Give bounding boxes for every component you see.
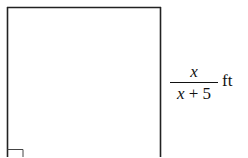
side-length-label: x x + 5 ft <box>170 62 232 103</box>
fraction-bar <box>170 82 218 83</box>
side-length-fraction: x x + 5 <box>170 62 218 103</box>
right-angle-marker-icon <box>8 150 24 158</box>
fraction-denominator: x + 5 <box>177 84 211 103</box>
fraction-numerator: x <box>190 62 198 81</box>
rectangle-diagram: x x + 5 ft <box>0 0 248 157</box>
denominator-constant: + 5 <box>184 84 211 103</box>
unit-label: ft <box>222 71 232 91</box>
